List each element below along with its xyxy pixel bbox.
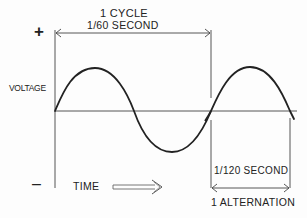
cycle-duration-label: 1/60 SECOND (87, 19, 159, 31)
alternation-label: 1 ALTERNATION (211, 196, 295, 208)
voltage-label: VOLTAGE (9, 83, 46, 93)
negative-sign: – (32, 175, 41, 193)
time-label: TIME (73, 180, 99, 192)
time-arrow-icon (113, 180, 162, 194)
ac-sine-wave-diagram: + – VOLTAGE TIME 1 CYCLE 1/60 SECOND 1/1… (0, 0, 307, 218)
alternation-duration-label: 1/120 SECOND (214, 165, 288, 176)
sine-wave (55, 67, 294, 152)
positive-sign: + (34, 22, 44, 42)
diagram-graphics (0, 0, 307, 218)
cycle-label: 1 CYCLE (100, 7, 148, 19)
